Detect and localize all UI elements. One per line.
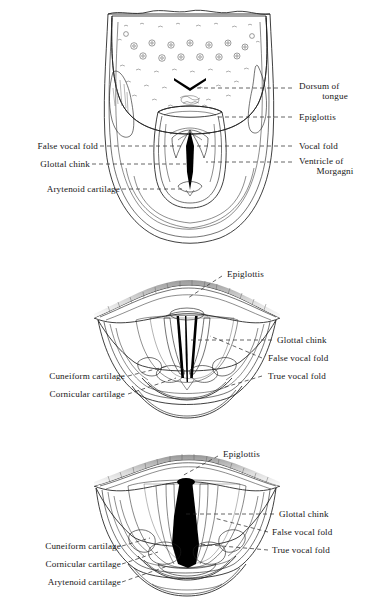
figure-larynx-open-glottis: Epiglottis Glottal chink False vocal fol… (0, 438, 374, 605)
leader-false-vocal-fold (210, 336, 262, 358)
label-line-1: Dorsum of (299, 81, 340, 91)
left-tonsil (109, 71, 133, 137)
label-cornicular-cartilage: Cornicular cartilage (50, 389, 125, 399)
figure-1-drawing (0, 0, 374, 255)
glottal-chink (172, 480, 199, 568)
figure-larynx-closed-glottis: Epiglottis Glottal chink False vocal fol… (0, 258, 374, 438)
vocal-apparatus (170, 128, 210, 196)
label-cornicular-cartilage: Cornicular cartilage (46, 559, 121, 569)
label-vocal-fold: Vocal fold (299, 141, 338, 151)
vallecula-detail (180, 96, 200, 105)
label-true-vocal-fold: True vocal fold (272, 545, 330, 555)
anatomical-plate: Dorsum of tongue Epiglottis Vocal fold V… (0, 0, 374, 605)
label-epiglottis: Epiglottis (227, 269, 264, 279)
label-ventricle-of-morgagni: Ventricle of Morgagni (299, 156, 371, 176)
label-line-2: tongue (299, 91, 371, 101)
label-line-1: Ventricle of (299, 156, 343, 166)
label-cuneiform-cartilage: Cuneiform cartilage (45, 541, 121, 551)
label-false-vocal-fold: False vocal fold (272, 527, 332, 537)
figure-2-drawing (0, 258, 374, 438)
label-true-vocal-fold: True vocal fold (268, 371, 326, 381)
right-pharyngeal-wall (248, 65, 266, 133)
laryngeal-interior (128, 478, 246, 568)
label-epiglottis: Epiglottis (223, 449, 260, 459)
glottal-chink (186, 130, 194, 190)
dorsum-of-tongue (112, 16, 267, 134)
label-glottal-chink: Glottal chink (40, 159, 90, 169)
label-false-vocal-fold: False vocal fold (268, 353, 328, 363)
label-arytenoid-cartilage: Arytenoid cartilage (47, 184, 120, 194)
lingual-follicles (118, 23, 260, 106)
label-epiglottis: Epiglottis (299, 112, 336, 122)
leader-false-vocal-fold (214, 518, 268, 532)
false-vocal-fold (156, 486, 174, 564)
label-arytenoid-cartilage: Arytenoid cartilage (48, 577, 121, 587)
epiglottis (158, 106, 222, 117)
label-line-2: Morgagni (299, 166, 371, 176)
oral-cavity-outline (104, 14, 273, 243)
median-notch (174, 78, 206, 91)
label-glottal-chink: Glottal chink (279, 509, 329, 519)
label-dorsum-of-tongue: Dorsum of tongue (299, 81, 371, 101)
glottal-chink (185, 316, 188, 382)
label-false-vocal-fold: False vocal fold (38, 141, 98, 151)
figure-tongue-and-larynx: Dorsum of tongue Epiglottis Vocal fold V… (0, 0, 374, 255)
epiglottis (94, 280, 280, 323)
label-glottal-chink: Glottal chink (277, 335, 327, 345)
circumvallate-papillae (124, 32, 255, 62)
label-cuneiform-cartilage: Cuneiform cartilage (49, 371, 125, 381)
